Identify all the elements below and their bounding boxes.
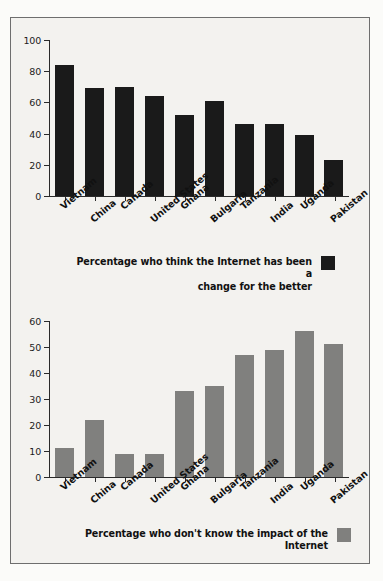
y-tick-label-top-60: 60: [29, 97, 41, 108]
y-tick-label-bottom-50: 50: [29, 342, 41, 353]
y-tick-top-40: [44, 134, 49, 135]
y-tick-label-top-0: 0: [35, 191, 41, 202]
legend-bottom: Percentage who don't know the impact of …: [41, 528, 351, 553]
y-tick-bottom-20: [44, 425, 49, 426]
y-tick-bottom-10: [44, 451, 49, 452]
x-tick-top-3: [155, 197, 156, 201]
x-tick-top-7: [275, 197, 276, 201]
y-tick-top-60: [44, 102, 49, 103]
bar-bottom-pakistan: [324, 344, 343, 477]
legend-swatch-dark: [321, 256, 335, 270]
bar-top-vietnam: [55, 65, 74, 196]
y-tick-label-bottom-40: 40: [29, 368, 41, 379]
x-tick-bottom-7: [275, 478, 276, 482]
x-tick-bottom-1: [95, 478, 96, 482]
y-tick-top-100: [44, 40, 49, 41]
y-tick-label-bottom-10: 10: [29, 446, 41, 457]
x-tick-top-1: [95, 197, 96, 201]
bar-bottom-tanzania: [235, 355, 254, 477]
legend-top: Percentage who think the Internet has be…: [67, 256, 335, 293]
x-label-bottom-india: India: [268, 480, 295, 505]
legend-top-line1: Percentage who think the Internet has be…: [76, 256, 312, 279]
x-label-bottom-china: China: [88, 478, 118, 505]
x-tick-bottom-3: [155, 478, 156, 482]
bar-top-tanzania: [235, 124, 254, 196]
x-tick-top-9: [335, 197, 336, 201]
chart-panel-bottom: 0102030405060 VietnamChinaCanadaUnited S…: [11, 296, 369, 564]
figure-frame: 020406080100 VietnamChinaCanadaUnited St…: [10, 17, 370, 564]
y-tick-bottom-40: [44, 373, 49, 374]
chart-panel-top: 020406080100 VietnamChinaCanadaUnited St…: [11, 18, 369, 296]
legend-bottom-text: Percentage who don't know the impact of …: [41, 528, 328, 553]
legend-swatch-gray: [337, 528, 351, 542]
y-tick-label-top-20: 20: [29, 159, 41, 170]
x-label-top-india: India: [268, 199, 295, 224]
y-tick-top-0: [44, 196, 49, 197]
y-tick-label-top-100: 100: [23, 35, 41, 46]
bar-bottom-uganda: [295, 331, 314, 477]
y-tick-bottom-60: [44, 321, 49, 322]
x-tick-top-5: [215, 197, 216, 201]
y-tick-top-20: [44, 165, 49, 166]
y-tick-label-top-80: 80: [29, 66, 41, 77]
x-tick-bottom-5: [215, 478, 216, 482]
bar-top-canada: [115, 87, 134, 196]
legend-top-text: Percentage who think the Internet has be…: [67, 256, 312, 293]
y-tick-label-bottom-60: 60: [29, 316, 41, 327]
bar-bottom-bulgaria: [205, 386, 224, 477]
y-tick-label-bottom-0: 0: [35, 472, 41, 483]
x-tick-bottom-9: [335, 478, 336, 482]
y-tick-bottom-50: [44, 347, 49, 348]
x-label-top-china: China: [88, 197, 118, 224]
y-tick-label-top-40: 40: [29, 128, 41, 139]
y-tick-label-bottom-20: 20: [29, 420, 41, 431]
y-tick-label-bottom-30: 30: [29, 394, 41, 405]
y-tick-bottom-0: [44, 477, 49, 478]
bar-top-uganda: [295, 135, 314, 196]
x-axis-labels-top: VietnamChinaCanadaUnited StatesGhanaBulg…: [49, 203, 369, 257]
legend-top-line2: change for the better: [198, 281, 312, 292]
y-tick-top-80: [44, 71, 49, 72]
bar-top-bulgaria: [205, 101, 224, 196]
y-tick-bottom-30: [44, 399, 49, 400]
